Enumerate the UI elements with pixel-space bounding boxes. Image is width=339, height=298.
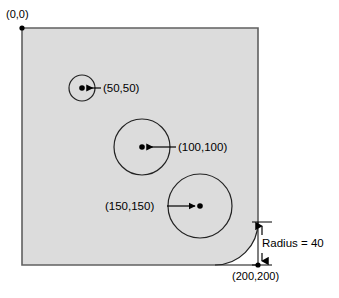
circle-50-50-label: (50,50)	[103, 82, 140, 94]
diagram-root: (0,0) (200,200) (50,50) (100,100) (150,1…	[0, 0, 339, 298]
circle-150-150-label: (150,150)	[105, 200, 154, 212]
circle-100-100-center-dot	[139, 144, 145, 150]
circle-150-150-center-dot	[197, 203, 203, 209]
radius-dimension-label: Radius = 40	[262, 237, 324, 249]
circle-50-50-center-dot	[79, 85, 85, 91]
origin-corner-label: (0,0)	[6, 8, 29, 20]
diagram-canvas: (0,0) (200,200) (50,50) (100,100) (150,1…	[0, 0, 339, 298]
far-corner-label: (200,200)	[232, 270, 279, 282]
origin-corner-dot	[19, 25, 24, 30]
circle-100-100-label: (100,100)	[178, 141, 227, 153]
